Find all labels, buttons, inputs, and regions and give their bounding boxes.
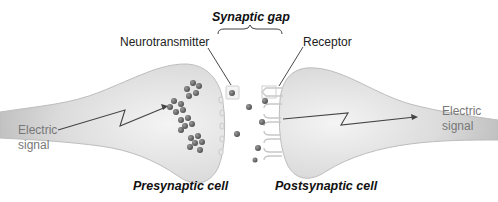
electric-signal-left-label-line2: signal bbox=[18, 138, 49, 152]
synaptic-gap-label: Synaptic gap bbox=[212, 10, 290, 24]
electric-signal-right-label-line2: signal bbox=[442, 119, 473, 133]
synaptic-gap-bracket bbox=[218, 25, 282, 34]
synapse-diagram bbox=[0, 0, 498, 202]
electric-signal-left-label-line1: Electric bbox=[18, 123, 57, 137]
neurotransmitter-label: Neurotransmitter bbox=[120, 35, 209, 49]
electric-signal-right-label-line1: Electric bbox=[442, 104, 481, 118]
postsynaptic-cell-label: Postsynaptic cell bbox=[275, 179, 377, 193]
receptor-label: Receptor bbox=[303, 35, 352, 49]
presynaptic-cell-label: Presynaptic cell bbox=[133, 179, 228, 193]
